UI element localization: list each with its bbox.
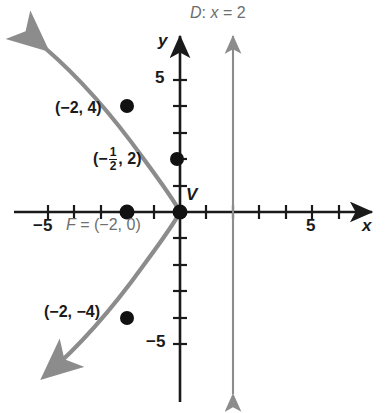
x-tick-label-5: 5 <box>306 216 315 236</box>
x-axis-label: x <box>362 216 371 236</box>
coordinate-plane-svg <box>0 0 392 413</box>
x-tick-label-neg5: −5 <box>33 216 52 236</box>
focus-equation: = (−2, 0) <box>80 216 140 233</box>
directrix-x-var: x <box>210 4 218 21</box>
point-neghalf-2 <box>170 152 184 166</box>
fraction-one-half: 12 <box>109 146 118 172</box>
point-label-neghalf-2: (−12, 2) <box>93 147 141 173</box>
y-tick-label-5: 5 <box>155 68 164 88</box>
point-neg2-neg4 <box>120 311 134 325</box>
directrix-d: D <box>190 4 202 21</box>
y-tick-label-neg5: −5 <box>146 332 165 352</box>
point-label-neg2-4: (−2, 4) <box>55 99 102 117</box>
focus-label: F = (−2, 0) <box>66 216 141 234</box>
directrix-colon: : <box>202 4 206 21</box>
fraction-numerator: 1 <box>109 146 118 160</box>
y-axis-label: y <box>158 31 167 51</box>
fraction-denominator: 2 <box>109 160 118 173</box>
directrix-equation: = 2 <box>223 4 246 21</box>
parabola-figure: D: x = 2 y x 5 −5 −5 5 (−2, 4) (−12, 2) … <box>0 0 392 413</box>
point-neg2-4 <box>120 99 134 113</box>
vertex-label: V <box>186 185 197 205</box>
minus-sign: − <box>98 150 107 167</box>
point-vertex <box>173 205 188 220</box>
directrix-label: D: x = 2 <box>190 4 246 22</box>
point-label-rest: , 2) <box>118 150 141 167</box>
focus-f: F <box>66 216 76 233</box>
point-label-neg2-neg4: (−2, −4) <box>44 303 100 321</box>
